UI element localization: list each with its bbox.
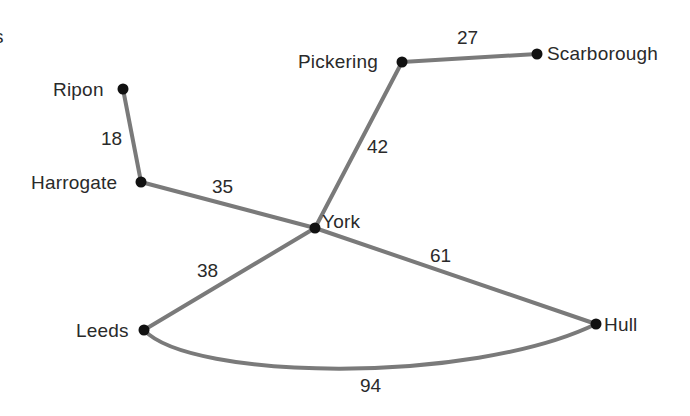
weight-leeds-hull: 94 <box>360 376 381 395</box>
node-leeds <box>139 325 150 336</box>
weight-york-pickering: 42 <box>367 137 388 156</box>
weight-harrogate-york: 35 <box>212 177 233 196</box>
edge-york-hull <box>315 228 596 324</box>
label-york: York <box>322 212 360 231</box>
edge-pickering-scarborough <box>402 54 537 62</box>
node-ripon <box>118 84 129 95</box>
label-ripon: Ripon <box>53 80 104 99</box>
edge-ripon-harrogate <box>123 89 141 182</box>
edge-york-leeds <box>144 228 315 330</box>
label-pickering: Pickering <box>298 52 378 71</box>
label-leeds: Leeds <box>76 321 129 340</box>
edge-york-pickering <box>315 62 402 228</box>
clipped-text-fragment: s <box>0 27 4 46</box>
weight-pickering-scarborough: 27 <box>457 28 478 47</box>
weight-york-leeds: 38 <box>197 261 218 280</box>
weight-ripon-harrogate: 18 <box>101 129 122 148</box>
node-harrogate <box>136 177 147 188</box>
node-scarborough <box>532 49 543 60</box>
node-york <box>310 223 321 234</box>
node-pickering <box>397 57 408 68</box>
label-hull: Hull <box>604 315 638 334</box>
node-hull <box>591 319 602 330</box>
label-harrogate: Harrogate <box>31 173 117 192</box>
weight-york-hull: 61 <box>430 246 451 265</box>
label-scarborough: Scarborough <box>547 44 658 63</box>
edge-leeds-hull <box>144 324 596 369</box>
